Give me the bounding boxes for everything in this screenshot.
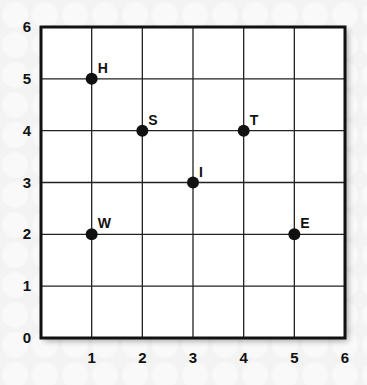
x-tick-label: 3 bbox=[189, 349, 197, 366]
x-tick-label: 1 bbox=[87, 349, 95, 366]
y-axis-ticks: 0123456 bbox=[23, 18, 32, 346]
x-axis-ticks: 123456 bbox=[87, 349, 349, 366]
point-marker bbox=[136, 125, 148, 137]
x-tick-label: 4 bbox=[239, 349, 248, 366]
point-marker bbox=[86, 228, 98, 240]
coordinate-grid-chart: 123456 0123456 HSTIWE bbox=[0, 0, 367, 385]
point-marker bbox=[187, 177, 199, 189]
y-tick-label: 5 bbox=[23, 70, 31, 87]
point-label: I bbox=[199, 164, 203, 180]
x-tick-label: 5 bbox=[290, 349, 298, 366]
x-tick-label: 6 bbox=[341, 349, 349, 366]
point-label: S bbox=[148, 112, 157, 128]
point-label: T bbox=[250, 112, 259, 128]
y-tick-label: 4 bbox=[23, 122, 32, 139]
point-marker bbox=[86, 73, 98, 85]
point-label: W bbox=[98, 215, 112, 231]
y-tick-label: 3 bbox=[23, 174, 31, 191]
point-label: E bbox=[300, 215, 309, 231]
y-tick-label: 1 bbox=[23, 277, 31, 294]
point-marker bbox=[238, 125, 250, 137]
y-tick-label: 2 bbox=[23, 225, 31, 242]
y-tick-label: 6 bbox=[23, 18, 31, 35]
point-marker bbox=[288, 228, 300, 240]
y-tick-label: 0 bbox=[23, 329, 31, 346]
x-tick-label: 2 bbox=[138, 349, 146, 366]
point-label: H bbox=[98, 60, 108, 76]
